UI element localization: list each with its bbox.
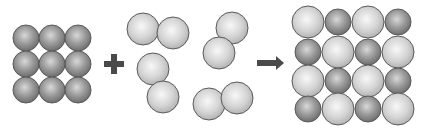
cation-atom <box>325 68 351 94</box>
metal-atom <box>65 25 91 51</box>
cation-atom <box>355 39 381 65</box>
reaction-diagram <box>0 0 425 131</box>
diatomic-molecule <box>127 13 189 49</box>
metal-atom <box>39 51 65 77</box>
metal-atom <box>13 51 39 77</box>
metal-atom <box>65 51 91 77</box>
cation-atom <box>385 9 411 35</box>
anion-atom <box>322 93 354 125</box>
gas-atom <box>147 81 179 113</box>
metal-atom <box>39 25 65 51</box>
anion-atom <box>352 6 384 38</box>
anion-atom <box>382 36 414 68</box>
anion-atom <box>322 36 354 68</box>
diatomic-molecule <box>137 53 179 113</box>
diatomic-molecule <box>203 12 248 69</box>
gas-atom <box>157 17 189 49</box>
metal-atom <box>65 77 91 103</box>
anion-atom <box>382 93 414 125</box>
diatomic-molecule <box>193 82 253 120</box>
metal-atom <box>39 77 65 103</box>
diatomic-molecules <box>127 12 253 120</box>
reactant-metal-lattice <box>13 25 91 103</box>
gas-atom <box>137 53 169 85</box>
plus-sign-icon <box>104 54 124 74</box>
gas-atom <box>127 13 159 45</box>
metal-atom <box>13 25 39 51</box>
anion-atom <box>292 65 324 97</box>
metal-atom <box>13 77 39 103</box>
cation-atom <box>325 9 351 35</box>
gas-atom <box>193 88 225 120</box>
cation-atom <box>355 96 381 122</box>
cation-atom <box>385 68 411 94</box>
gas-atom <box>221 82 253 114</box>
cation-atom <box>295 96 321 122</box>
anion-atom <box>292 6 324 38</box>
reaction-arrow-icon <box>257 56 284 70</box>
diagram-canvas <box>0 0 425 131</box>
product-compound-lattice <box>292 6 414 125</box>
cation-atom <box>295 39 321 65</box>
gas-atom <box>203 37 235 69</box>
anion-atom <box>352 65 384 97</box>
